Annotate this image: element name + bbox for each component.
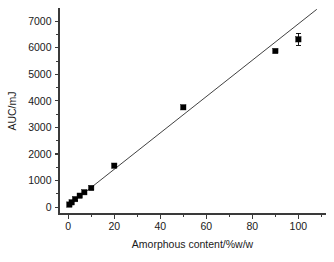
y-tick-label: 5000 bbox=[28, 68, 52, 80]
x-tick-label: 40 bbox=[154, 220, 166, 232]
x-axis-title: Amorphous content/%w/w bbox=[132, 238, 254, 250]
axis-spines bbox=[59, 8, 326, 214]
data-point-marker bbox=[112, 163, 117, 168]
data-point-marker bbox=[273, 48, 278, 53]
y-axis-title: AUC/mJ bbox=[6, 91, 18, 130]
regression-line bbox=[68, 9, 317, 205]
x-tick-label: 0 bbox=[65, 220, 71, 232]
chart-figure: 0100020003000400050006000700002040608010… bbox=[0, 0, 334, 262]
x-tick-label: 100 bbox=[290, 220, 308, 232]
y-tick-label: 0 bbox=[46, 201, 52, 213]
data-point-marker bbox=[296, 37, 301, 42]
data-point-marker bbox=[89, 185, 94, 190]
x-tick-label: 80 bbox=[247, 220, 259, 232]
data-point-marker bbox=[82, 190, 87, 195]
x-tick-label: 20 bbox=[108, 220, 120, 232]
scatter-plot: 0100020003000400050006000700002040608010… bbox=[0, 0, 334, 262]
y-tick-label: 6000 bbox=[28, 41, 52, 53]
y-tick-label: 1000 bbox=[28, 174, 52, 186]
data-point-marker bbox=[181, 105, 186, 110]
y-tick-label: 4000 bbox=[28, 95, 52, 107]
data-series bbox=[67, 33, 301, 207]
y-tick-label: 3000 bbox=[28, 121, 52, 133]
y-tick-label: 2000 bbox=[28, 148, 52, 160]
x-tick-label: 60 bbox=[200, 220, 212, 232]
y-tick-label: 7000 bbox=[28, 15, 52, 27]
